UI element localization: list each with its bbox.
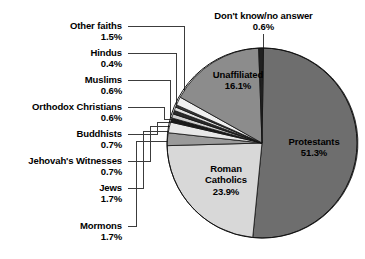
callout-buddhists-name: Buddhists bbox=[76, 128, 122, 139]
label-protestants: Protestants 51.3% bbox=[270, 136, 358, 159]
label-roman-catholics: Roman Catholics 23.9% bbox=[181, 163, 271, 197]
callout-jews-name: Jews bbox=[99, 182, 122, 193]
label-dont-know: Don't know/no answer 0.6% bbox=[186, 10, 341, 33]
callout-hindus-percent: 0.4% bbox=[90, 58, 122, 69]
label-unaffiliated-name: Unaffiliated bbox=[184, 69, 292, 80]
callout-orthodox-christians-percent: 0.6% bbox=[32, 112, 122, 123]
callout-jews: Jews 1.7% bbox=[99, 182, 122, 205]
label-roman-catholics-name2: Catholics bbox=[181, 174, 271, 185]
pie-chart-figure: Other faiths 1.5% Hindus 0.4% Muslims 0.… bbox=[0, 0, 365, 259]
callout-jews-percent: 1.7% bbox=[99, 193, 122, 204]
label-dont-know-name: Don't know/no answer bbox=[186, 10, 341, 21]
pie-chart-canvas bbox=[0, 0, 365, 259]
callout-hindus-name: Hindus bbox=[90, 47, 122, 58]
callout-orthodox-christians: Orthodox Christians 0.6% bbox=[32, 101, 122, 124]
leader-line-mormons bbox=[128, 141, 168, 226]
callout-mormons: Mormons 1.7% bbox=[80, 220, 122, 243]
label-dont-know-percent: 0.6% bbox=[186, 21, 341, 32]
callout-buddhists-percent: 0.7% bbox=[76, 139, 122, 150]
callout-jehovahs-witnesses-name: Jehovah's Witnesses bbox=[28, 155, 122, 166]
callout-other-faiths-name: Other faiths bbox=[70, 20, 122, 31]
callout-mormons-percent: 1.7% bbox=[80, 231, 122, 242]
callout-other-faiths: Other faiths 1.5% bbox=[70, 20, 122, 43]
callout-muslims: Muslims 0.6% bbox=[85, 74, 122, 97]
callout-jehovahs-witnesses: Jehovah's Witnesses 0.7% bbox=[28, 155, 122, 178]
label-roman-catholics-percent: 23.9% bbox=[181, 186, 271, 197]
callout-hindus: Hindus 0.4% bbox=[90, 47, 122, 70]
label-protestants-percent: 51.3% bbox=[270, 147, 358, 158]
callout-other-faiths-percent: 1.5% bbox=[70, 31, 122, 42]
callout-muslims-name: Muslims bbox=[85, 74, 122, 85]
callout-mormons-name: Mormons bbox=[80, 220, 122, 231]
label-unaffiliated-percent: 16.1% bbox=[184, 80, 292, 91]
label-protestants-name: Protestants bbox=[270, 136, 358, 147]
callout-buddhists: Buddhists 0.7% bbox=[76, 128, 122, 151]
callout-jehovahs-witnesses-percent: 0.7% bbox=[28, 166, 122, 177]
callout-muslims-percent: 0.6% bbox=[85, 85, 122, 96]
callout-orthodox-christians-name: Orthodox Christians bbox=[32, 101, 122, 112]
label-unaffiliated: Unaffiliated 16.1% bbox=[184, 69, 292, 92]
label-roman-catholics-name: Roman bbox=[181, 163, 271, 174]
